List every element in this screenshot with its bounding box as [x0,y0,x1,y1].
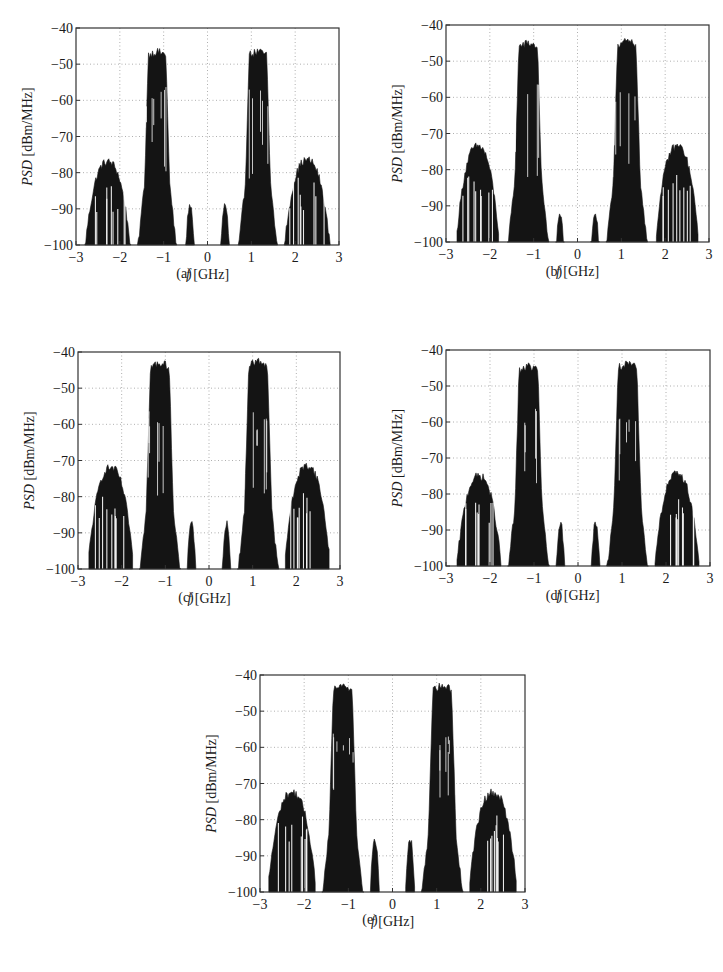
psd-trace [89,358,329,569]
y-tick-label: −40 [235,668,257,683]
x-tick-label: −1 [526,247,541,262]
x-tick-label: 0 [206,574,213,589]
y-tick-label: −100 [228,885,257,900]
y-axis-ticks: −100−90−80−70−60−50−40 [228,668,264,900]
y-tick-label: −50 [51,57,73,72]
x-tick-label: −1 [527,571,542,586]
y-tick-label: −80 [53,490,75,505]
y-tick-label: −70 [51,130,73,145]
y-axis-label: PSD [dBm/MHz] [390,409,405,508]
subfigure-caption: (e) [350,912,390,928]
psd-panel-d: −3−2−10123−100−90−80−70−60−50−40f [GHz]P… [384,338,723,614]
y-tick-label: −90 [421,523,443,538]
y-tick-label: −70 [421,127,443,142]
y-axis-label: PSD [dBm/MHz] [204,734,219,833]
y-tick-label: −80 [51,166,73,181]
y-tick-label: −100 [44,238,73,253]
x-tick-label: −1 [158,574,173,589]
y-axis-ticks: −100−90−80−70−60−50−40 [414,343,450,574]
y-tick-label: −60 [51,93,73,108]
x-tick-label: 1 [618,247,625,262]
psd-plot: −3−2−10123−100−90−80−70−60−50−40f [GHz]P… [14,16,355,293]
x-tick-label: 3 [337,574,344,589]
y-tick-label: −80 [421,487,443,502]
y-tick-label: −40 [51,21,73,36]
y-axis-ticks: −100−90−80−70−60−50−40 [414,18,450,250]
x-tick-label: 1 [249,574,256,589]
x-tick-label: 1 [248,250,255,265]
x-tick-label: −1 [341,897,356,912]
x-tick-label: 0 [389,897,396,912]
y-tick-label: −40 [421,343,443,358]
x-tick-label: −2 [112,250,127,265]
psd-panel-c: −3−2−10123−100−90−80−70−60−50−40f [GHz]P… [16,340,356,617]
x-tick-label: 0 [575,571,582,586]
x-tick-label: −2 [297,897,312,912]
y-tick-label: −100 [414,235,443,250]
psd-plot: −3−2−10123−100−90−80−70−60−50−40f [GHz]P… [384,338,723,614]
y-tick-label: −90 [51,202,73,217]
y-tick-label: −70 [421,451,443,466]
y-tick-label: −70 [53,454,75,469]
x-tick-label: 3 [707,571,714,586]
y-axis-ticks: −100−90−80−70−60−50−40 [44,21,80,253]
y-axis-label: PSD [dBm/MHz] [390,84,405,183]
x-tick-label: 3 [336,250,343,265]
y-tick-label: −90 [421,199,443,214]
y-tick-label: −50 [235,704,257,719]
psd-plot: −3−2−10123−100−90−80−70−60−50−40f [GHz]P… [16,340,356,617]
x-tick-label: 0 [204,250,211,265]
x-tick-label: 2 [292,250,299,265]
subfigure-caption: (d) [534,588,574,604]
y-axis-label: PSD [dBm/MHz] [20,87,35,186]
x-tick-label: 2 [293,574,300,589]
subfigure-caption: (b) [534,264,574,280]
y-axis-label: PSD [dBm/MHz] [22,411,37,510]
psd-panel-b: −3−2−10123−100−90−80−70−60−50−40f [GHz]P… [384,13,723,290]
x-tick-label: 2 [663,571,670,586]
y-tick-label: −90 [235,849,257,864]
y-tick-label: −70 [235,777,257,792]
subfigure-caption: (a) [164,266,204,282]
x-tick-label: −2 [482,247,497,262]
x-tick-label: −2 [483,571,498,586]
y-tick-label: −60 [53,417,75,432]
x-tick-label: 0 [574,247,581,262]
y-tick-label: −60 [421,415,443,430]
y-tick-label: −60 [421,90,443,105]
x-tick-label: 3 [706,247,713,262]
psd-plot: −3−2−10123−100−90−80−70−60−50−40f [GHz]P… [198,663,541,940]
x-tick-label: 3 [522,897,529,912]
y-tick-label: −80 [235,813,257,828]
y-tick-label: −80 [421,163,443,178]
y-tick-label: −50 [421,54,443,69]
subfigure-caption: (c) [166,590,206,606]
x-tick-label: 2 [477,897,484,912]
y-axis-ticks: −100−90−80−70−60−50−40 [46,345,82,577]
psd-panel-a: −3−2−10123−100−90−80−70−60−50−40f [GHz]P… [14,16,355,293]
y-tick-label: −100 [414,559,443,574]
y-tick-label: −90 [53,526,75,541]
y-tick-label: −50 [53,381,75,396]
y-tick-label: −50 [421,379,443,394]
y-tick-label: −100 [46,562,75,577]
x-tick-label: 1 [433,897,440,912]
y-tick-label: −40 [53,345,75,360]
x-tick-label: 2 [662,247,669,262]
psd-plot: −3−2−10123−100−90−80−70−60−50−40f [GHz]P… [384,13,723,290]
psd-trace [457,361,699,566]
y-tick-label: −60 [235,740,257,755]
x-tick-label: 1 [619,571,626,586]
psd-panel-e: −3−2−10123−100−90−80−70−60−50−40f [GHz]P… [198,663,541,940]
x-tick-label: −2 [114,574,129,589]
x-tick-label: −1 [156,250,171,265]
y-tick-label: −40 [421,18,443,33]
